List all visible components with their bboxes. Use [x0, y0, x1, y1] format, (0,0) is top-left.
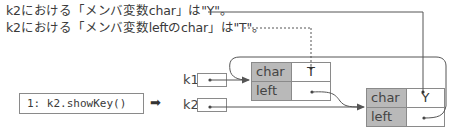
pointer-node-a-left-to-node-b: [310, 90, 360, 107]
pointer-k2-to-node-b: [208, 105, 364, 108]
pointer-wires: [0, 0, 465, 135]
pointer-node-b-left-to-node-a: [230, 57, 446, 120]
leader-line-t: [244, 28, 313, 70]
leader-line-y: [208, 12, 425, 94]
